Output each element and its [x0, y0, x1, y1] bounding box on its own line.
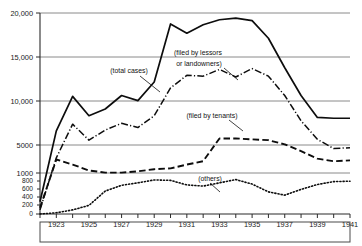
annotation-total-cases: (total cases)	[110, 67, 148, 75]
y-tick-label-5000: 5000	[17, 141, 33, 150]
annotation-lessors-line2: or landowners)	[176, 60, 222, 68]
line-chart-canvas: 20,000 15,000 10,000 5000 1000 800 600 4…	[0, 0, 362, 246]
x-tick-label-1929: 1929	[146, 220, 162, 229]
x-tick-label-1935: 1935	[244, 220, 260, 229]
y-tick-label-600: 600	[22, 185, 33, 192]
y-tick-label-15000: 15,000	[10, 53, 33, 62]
y-tick-label-1000: 1000	[17, 169, 33, 178]
annotation-others: (others)	[198, 175, 222, 183]
x-tick-label-1923: 1923	[48, 220, 64, 229]
y-tick-label-400: 400	[22, 193, 33, 200]
x-tick-label-1939: 1939	[309, 220, 325, 229]
y-tick-label-10000: 10,000	[10, 97, 33, 106]
x-tick-label-1927: 1927	[113, 220, 129, 229]
y-tick-label-800: 800	[22, 177, 33, 184]
annotation-tenants: (filed by tenants)	[187, 112, 238, 120]
x-tick-label-1933: 1933	[211, 220, 227, 229]
x-tick-label-1937: 1937	[277, 220, 293, 229]
y-tick-label-20000: 20,000	[10, 9, 33, 18]
x-tick-label-1925: 1925	[81, 220, 97, 229]
x-tick-label-1931: 1931	[179, 220, 195, 229]
chart-figure: 20,000 15,000 10,000 5000 1000 800 600 4…	[0, 0, 362, 246]
chart-background	[0, 0, 362, 246]
annotation-lessors-line1: (filed by lessors	[174, 49, 222, 57]
y-tick-label-200: 200	[22, 201, 33, 208]
y-tick-label-0: 0	[29, 210, 33, 217]
